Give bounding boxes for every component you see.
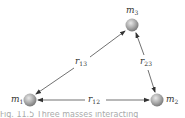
figure-caption: Fig. 11.5 Three masses interacting — [0, 111, 138, 118]
mass-m3-sphere — [126, 19, 139, 32]
mass-m2-label: m2 — [166, 94, 179, 105]
mass-m3-label: m3 — [126, 5, 139, 16]
three-body-diagram: m3 m1 m2 r12 r13 r23 — [0, 0, 185, 118]
distance-r23-label: r23 — [140, 56, 152, 67]
mass-m1-label: m1 — [11, 94, 23, 105]
distance-r12-label: r12 — [88, 94, 100, 105]
mass-m2-sphere — [151, 94, 164, 107]
distance-r13-label: r13 — [75, 56, 87, 67]
mass-m1-sphere — [24, 94, 37, 107]
